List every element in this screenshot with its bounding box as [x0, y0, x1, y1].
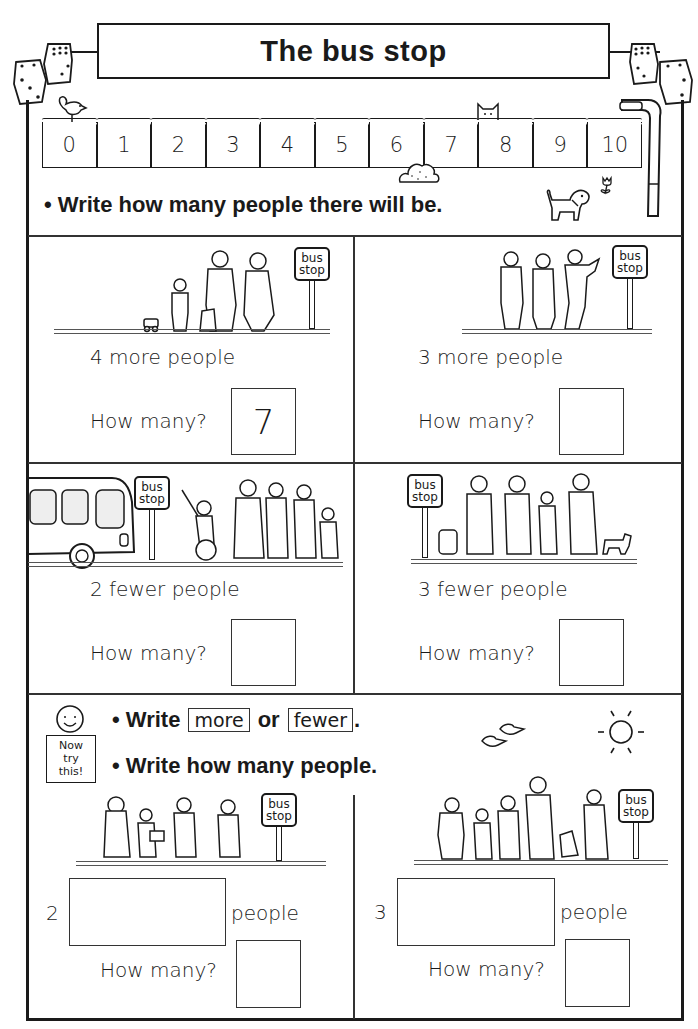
fence-picket-5: 5 — [315, 122, 370, 168]
change-label: 4 more people — [90, 345, 235, 369]
fence-picket-4: 4 — [260, 122, 315, 168]
how-many-label: How many? — [428, 957, 545, 981]
start-count: 2 — [46, 901, 59, 925]
fence-picket-0: 0 — [42, 122, 97, 168]
people-group-illustration — [432, 775, 622, 863]
answer-box[interactable]: 7 — [231, 388, 296, 455]
people-group-illustration — [437, 474, 637, 560]
problem-panel-1: busstop 4 more people How many? 7 — [28, 237, 353, 462]
ground-line — [54, 329, 330, 334]
fence-picket-1: 1 — [97, 122, 152, 168]
ground-line — [411, 559, 637, 564]
bus-stop-sign: busstop — [134, 476, 170, 510]
more-fewer-blank[interactable] — [397, 878, 555, 946]
people-label: people — [560, 900, 628, 924]
problem-panel-2: busstop 3 more people How many? — [355, 237, 682, 462]
ground-line — [76, 861, 326, 866]
answer-box[interactable] — [559, 619, 624, 686]
fence-picket-9: 9 — [533, 122, 588, 168]
answer-box[interactable] — [231, 619, 296, 686]
people-group-illustration — [140, 245, 290, 335]
sun-icon — [596, 707, 646, 757]
change-label: 2 fewer people — [90, 577, 239, 601]
number-line-fence: 0 1 2 3 4 5 6 7 8 9 10 — [42, 118, 642, 168]
change-label: 3 more people — [418, 345, 563, 369]
bus-stop-pole — [627, 279, 633, 329]
people-group-illustration — [102, 795, 252, 861]
problem-panel-3: busstop 2 fewer people How many? — [28, 464, 353, 693]
fence-picket-3: 3 — [206, 122, 261, 168]
people-group-illustration — [499, 247, 609, 333]
ground-line — [462, 329, 652, 334]
answer-box[interactable] — [236, 940, 301, 1008]
ground-line — [414, 860, 668, 865]
people-group-illustration — [178, 478, 343, 564]
bus-illustration — [28, 476, 136, 572]
start-count: 3 — [374, 900, 387, 924]
bus-stop-pole — [276, 827, 282, 861]
problem-panel-4: busstop 3 fewer people How many? — [355, 464, 682, 693]
instruction-more-or-fewer: • Write more or fewer. — [112, 707, 360, 733]
bus-stop-sign: busstop — [261, 793, 297, 827]
bus-stop-pole — [309, 281, 315, 329]
now-try-this-section: Now try this! • Write more or fewer. • W… — [28, 695, 682, 1019]
bus-stop-pole — [633, 823, 639, 859]
answer-box[interactable] — [565, 939, 630, 1007]
main-instruction: • Write how many people there will be. — [44, 192, 442, 218]
word-option-fewer: fewer — [288, 708, 353, 732]
birds-icon — [480, 721, 528, 747]
fence-picket-2: 2 — [151, 122, 206, 168]
instruction-how-many-people: • Write how many people. — [112, 753, 377, 779]
bus-stop-sign: busstop — [612, 245, 648, 279]
how-many-label: How many? — [100, 958, 217, 982]
how-many-label: How many? — [418, 409, 535, 433]
how-many-label: How many? — [90, 409, 207, 433]
flower-icon — [598, 176, 616, 196]
now-try-this-badge: Now try this! — [46, 735, 96, 783]
bus-stop-pole — [422, 508, 428, 558]
how-many-label: How many? — [418, 641, 535, 665]
people-label: people — [231, 901, 299, 925]
page-title: The bus stop — [260, 35, 446, 68]
how-many-label: How many? — [90, 641, 207, 665]
bus-stop-sign: busstop — [618, 789, 654, 823]
title-box: The bus stop — [97, 23, 610, 79]
change-label: 3 fewer people — [418, 577, 567, 601]
more-fewer-blank[interactable] — [69, 878, 226, 946]
ground-line — [28, 562, 343, 567]
bus-stop-pole — [149, 510, 155, 560]
lamppost-icon — [614, 96, 664, 222]
answer-box[interactable] — [559, 388, 624, 455]
bush-icon — [398, 158, 440, 184]
bus-stop-sign: busstop — [294, 247, 330, 281]
word-option-more: more — [188, 708, 249, 732]
dog-icon — [544, 186, 592, 222]
fence-picket-8: 8 — [478, 122, 533, 168]
